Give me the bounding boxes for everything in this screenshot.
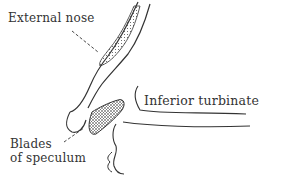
brace-mark [108, 152, 112, 172]
diagram-canvas: External nose Inferior turbinate Blades … [0, 0, 293, 178]
leader-blades [64, 128, 84, 142]
cartilage-dotted-region [100, 6, 140, 66]
septum-curve [67, 112, 87, 132]
label-external-nose: External nose [8, 11, 95, 25]
label-blades: Blades [10, 137, 52, 151]
label-of-speculum: of speculum [10, 151, 86, 165]
speculum-blades [89, 100, 124, 135]
label-inferior-turbinate: Inferior turbinate [144, 93, 259, 108]
nasal-floor-curve [113, 124, 124, 174]
leader-external-nose [72, 31, 98, 52]
